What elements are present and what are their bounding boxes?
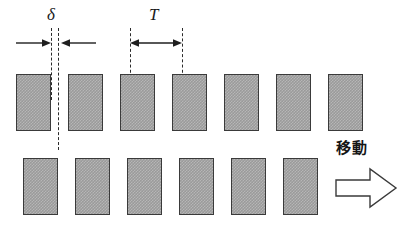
top-row-block — [224, 74, 259, 131]
top-row-block — [68, 74, 103, 131]
top-row-block — [276, 74, 311, 131]
bottom-row-block — [75, 158, 110, 215]
top-row-block — [120, 74, 155, 131]
dash-line-period-end — [182, 28, 183, 78]
bottom-row-block — [231, 158, 266, 215]
period-label: T — [149, 6, 158, 23]
motion-label: 移動 — [336, 136, 368, 157]
dash-line-bottom-block-edge — [58, 28, 59, 150]
motion-arrow-icon — [334, 166, 398, 210]
bottom-row-block — [283, 158, 318, 215]
bottom-row-block — [179, 158, 214, 215]
top-row-block — [16, 74, 51, 131]
dash-line-top-block-edge — [51, 28, 52, 100]
diffraction-grating-diagram: δ T 移動 — [0, 0, 404, 239]
dash-line-period-start — [130, 28, 131, 78]
delta-label: δ — [47, 6, 55, 23]
bottom-row-block — [127, 158, 162, 215]
top-row-block — [328, 74, 363, 131]
delta-dimension-arrows — [14, 37, 100, 49]
bottom-row-block — [23, 158, 58, 215]
top-row-block — [172, 74, 207, 131]
period-dimension-arrows — [130, 37, 182, 49]
